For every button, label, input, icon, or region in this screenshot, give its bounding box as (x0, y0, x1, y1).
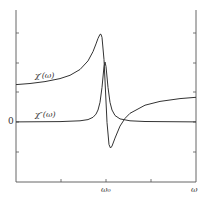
susceptibility-chart (0, 0, 207, 200)
chi-prime-curve (16, 34, 196, 148)
chi-double-prime-label: χ″(ω) (35, 111, 56, 119)
y-zero-label: 0 (8, 117, 14, 126)
chi-prime-label: χ′(ω) (35, 72, 54, 80)
x-omega-label: ω (191, 186, 198, 194)
x-omega0-label: ω₀ (101, 186, 111, 194)
